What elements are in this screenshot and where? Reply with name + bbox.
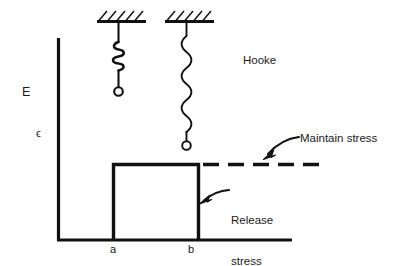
release-stress-label-line2: stress bbox=[231, 255, 273, 266]
y-axis-label-epsilon: ϵ bbox=[36, 127, 41, 140]
maintain-stress-arrow-icon bbox=[264, 137, 300, 160]
stretched-spring-icon bbox=[182, 36, 192, 132]
y-axis-label-E: E bbox=[22, 85, 30, 100]
x-tick-label-a: a bbox=[110, 243, 116, 256]
ceiling-right-hatch-icon bbox=[167, 11, 211, 21]
hooke-label: Hooke bbox=[243, 54, 276, 68]
maintain-stress-label: Maintain stress bbox=[300, 132, 377, 146]
release-stress-label: Release stress bbox=[231, 187, 273, 266]
left-mass-circle-icon bbox=[114, 87, 123, 96]
x-tick-label-b: b bbox=[188, 243, 194, 256]
right-mass-circle-icon bbox=[182, 141, 191, 150]
left-spring-system bbox=[97, 11, 146, 96]
compressed-spring-icon bbox=[113, 42, 124, 71]
stress-step-curve bbox=[114, 165, 199, 241]
ceiling-left-hatch-icon bbox=[99, 11, 143, 21]
right-spring-system bbox=[165, 11, 214, 150]
release-stress-arrow-icon bbox=[200, 190, 230, 204]
hooke-stress-strain-figure: E ϵ Hooke Maintain stress Release stress… bbox=[0, 0, 396, 266]
release-stress-label-line1: Release bbox=[231, 214, 273, 228]
